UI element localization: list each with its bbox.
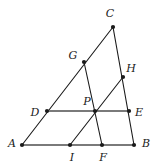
vertex-label-p: P bbox=[83, 96, 90, 107]
vertex-point-i bbox=[68, 143, 72, 147]
vertex-label-e: E bbox=[135, 107, 143, 118]
vertex-label-c: C bbox=[106, 8, 114, 19]
geometry-canvas bbox=[0, 0, 161, 165]
vertex-point-b bbox=[132, 143, 136, 147]
vertex-point-p bbox=[93, 109, 97, 113]
vertex-point-h bbox=[121, 75, 125, 79]
vertex-label-a: A bbox=[8, 138, 16, 149]
vertex-point-f bbox=[100, 143, 104, 147]
segment-side-ac bbox=[22, 27, 113, 145]
vertex-label-h: H bbox=[126, 63, 136, 74]
vertex-label-f: F bbox=[99, 152, 107, 163]
geometry-figure: ABCDEFGHIP bbox=[0, 0, 161, 165]
vertex-point-g bbox=[82, 60, 86, 64]
vertex-point-e bbox=[127, 109, 131, 113]
vertex-point-a bbox=[20, 143, 24, 147]
vertex-point-c bbox=[111, 25, 115, 29]
vertex-label-d: D bbox=[31, 107, 40, 118]
vertex-label-g: G bbox=[69, 50, 78, 61]
vertex-label-i: I bbox=[70, 152, 74, 163]
vertex-point-d bbox=[45, 109, 49, 113]
vertex-label-b: B bbox=[142, 138, 150, 149]
